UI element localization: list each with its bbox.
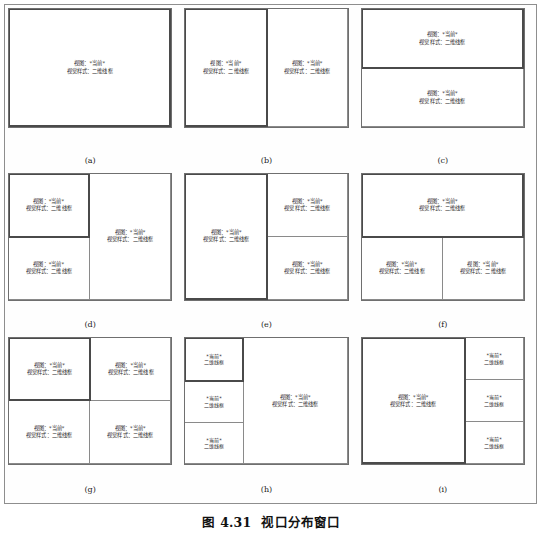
viewport-preview-b: 视图：*当前* 视觉样式：二维线框 视图：*当前* 视觉样式：二维线框 <box>184 8 348 128</box>
viewport-h-2[interactable]: *当前* 二维线框 <box>184 381 243 423</box>
viewport-label: 视图：*当前* 视觉样式：二维线框 <box>419 198 465 212</box>
viewport-label: 视图：*当前* 视觉样式：二维线框 <box>67 60 113 74</box>
panel-i-one-big-left-three-right: 视图：*当前* 视觉样式：二维线框 *当前* 二维线框 *当前* <box>355 333 531 498</box>
viewport-label: 视图：*当前* 视觉样式：二维线框 <box>108 362 154 376</box>
viewport-i-1[interactable]: 视图：*当前* 视觉样式：二维线框 <box>361 337 466 464</box>
panel-tag-g: (g) <box>84 485 95 494</box>
panel-tag-e: (e) <box>261 320 272 329</box>
panel-tag-h: (h) <box>261 485 272 494</box>
viewport-label: 视图：*当前* 视觉样式：二维线框 <box>390 394 436 408</box>
panel-f-one-top-two-bottom: 视图：*当前* 视觉样式：二维线框 视图：*当前* 视觉样式：二维线框 视图：*… <box>355 169 531 334</box>
viewport-preview-d: 视图：*当前* 视觉样式：二维线框 视图：*当前* 视觉样式：二维线框 视图：*… <box>8 173 172 301</box>
viewport-f-1[interactable]: 视图：*当前* 视觉样式：二维线框 <box>361 173 524 239</box>
viewport-preview-g: 视图：*当前* 视觉样式：二维线框 视图：*当前* 视觉样式：二维线框 <box>8 337 172 465</box>
panel-tag-a: (a) <box>85 156 96 165</box>
viewport-e-2[interactable]: 视图：*当前* 视觉样式：二维线框 <box>267 173 348 237</box>
viewport-label: 视图：*当前* 视觉样式：二维线框 <box>284 198 330 212</box>
viewport-b-2[interactable]: 视图：*当前* 视觉样式：二维线框 <box>267 8 348 127</box>
viewport-preview-e: 视图：*当前* 视觉样式：二维线框 视图：*当前* 视觉样式：二维线框 视图：*… <box>184 173 348 301</box>
viewport-label: 视图：*当前* 视觉样式：二维线框 <box>419 31 465 45</box>
viewport-g-2[interactable]: 视图：*当前* 视觉样式：二维线框 <box>90 337 171 401</box>
viewport-preview-h: *当前* 二维线框 *当前* 二维线框 *当前* 二维线框 <box>184 337 348 465</box>
viewport-label: *当前* 二维线框 <box>484 436 504 449</box>
panel-tag-b: (b) <box>261 156 272 165</box>
viewport-label: *当前* 二维线框 <box>484 394 504 407</box>
viewport-label: 视图：*当前* 视觉样式：二维线框 <box>419 90 465 104</box>
viewport-g-3[interactable]: 视图：*当前* 视觉样式：二维线框 <box>8 400 90 464</box>
viewport-e-3[interactable]: 视图：*当前* 视觉样式：二维线框 <box>267 236 348 300</box>
viewport-label: 视图：*当前* 视觉样式：二维线框 <box>26 425 72 439</box>
viewport-label: 视图：*当前* 视觉样式：二维线框 <box>27 362 73 376</box>
panel-g-four-quadrants: 视图：*当前* 视觉样式：二维线框 视图：*当前* 视觉样式：二维线框 <box>2 333 178 498</box>
viewport-d-2[interactable]: 视图：*当前* 视觉样式：二维线框 <box>8 237 90 300</box>
viewport-label: 视图：*当前* 视觉样式：二维线框 <box>460 261 506 275</box>
viewport-configuration-grid: 视图：*当前* 视觉样式：二维线框 (a) 视图：*当前* 视觉样式：二维线框 … <box>0 0 533 500</box>
panel-a-single-viewport: 视图：*当前* 视觉样式：二维线框 (a) <box>2 4 178 169</box>
panel-tag-f: (f) <box>438 320 447 329</box>
viewport-label: 视图：*当前* 视觉样式：二维线框 <box>26 261 72 275</box>
figure-caption: 图 4.31视口分布窗口 <box>0 512 543 531</box>
viewport-f-3[interactable]: 视图：*当前* 视觉样式：二维线框 <box>442 237 524 300</box>
viewport-i-3[interactable]: *当前* 二维线框 <box>465 379 524 422</box>
panel-b-two-vertical: 视图：*当前* 视觉样式：二维线框 视图：*当前* 视觉样式：二维线框 (b) <box>178 4 354 169</box>
viewport-label: 视图：*当前* 视觉样式：二维线框 <box>203 60 249 74</box>
viewport-label: 视图：*当前* 视觉样式：二维线框 <box>26 198 72 212</box>
viewport-i-2[interactable]: *当前* 二维线框 <box>465 337 524 380</box>
figure-caption-title: 视口分布窗口 <box>261 515 340 530</box>
viewport-preview-i: 视图：*当前* 视觉样式：二维线框 *当前* 二维线框 *当前* <box>361 337 525 465</box>
viewport-label: 视图：*当前* 视觉样式：二维线框 <box>107 425 153 439</box>
viewport-c-2[interactable]: 视图：*当前* 视觉样式：二维线框 <box>361 68 524 127</box>
viewport-preview-a: 视图：*当前* 视觉样式：二维线框 <box>8 8 172 128</box>
viewport-h-4[interactable]: 视图：*当前* 视觉样式：二维线框 <box>243 337 348 464</box>
panel-tag-c: (c) <box>437 156 448 165</box>
viewport-g-1[interactable]: 视图：*当前* 视觉样式：二维线框 <box>8 337 91 401</box>
viewport-label: 视图：*当前* 视觉样式：二维线框 <box>284 60 330 74</box>
viewport-label: *当前* 二维线框 <box>204 353 224 366</box>
panel-d-two-left-one-right: 视图：*当前* 视觉样式：二维线框 视图：*当前* 视觉样式：二维线框 视图：*… <box>2 169 178 334</box>
panel-c-two-horizontal: 视图：*当前* 视觉样式：二维线框 视图：*当前* 视觉样式：二维线框 (c) <box>355 4 531 169</box>
viewport-d-1[interactable]: 视图：*当前* 视觉样式：二维线框 <box>8 173 90 238</box>
viewport-label: 视图：*当前* 视觉样式：二维线框 <box>203 229 249 243</box>
panel-h-three-left-one-big-right: *当前* 二维线框 *当前* 二维线框 *当前* 二维线框 <box>178 333 354 498</box>
panel-tag-d: (d) <box>84 320 95 329</box>
viewport-h-1[interactable]: *当前* 二维线框 <box>184 337 243 381</box>
viewport-preview-f: 视图：*当前* 视觉样式：二维线框 视图：*当前* 视觉样式：二维线框 视图：*… <box>361 173 525 301</box>
viewport-preview-c: 视图：*当前* 视觉样式：二维线框 视图：*当前* 视觉样式：二维线框 <box>361 8 525 128</box>
viewport-c-1[interactable]: 视图：*当前* 视觉样式：二维线框 <box>361 8 524 69</box>
viewport-label: *当前* 二维线框 <box>204 437 224 450</box>
viewport-label: 视图：*当前* 视觉样式：二维线框 <box>272 394 318 408</box>
panel-tag-i: (i) <box>438 485 447 494</box>
viewport-a-1[interactable]: 视图：*当前* 视觉样式：二维线框 <box>8 8 171 127</box>
figure-caption-number: 图 4.31 <box>202 515 251 530</box>
viewport-h-3[interactable]: *当前* 二维线框 <box>184 422 243 464</box>
viewport-label: *当前* 二维线框 <box>204 395 224 408</box>
viewport-b-1[interactable]: 视图：*当前* 视觉样式：二维线框 <box>184 8 267 127</box>
viewport-label: *当前* 二维线框 <box>484 352 504 365</box>
viewport-g-4[interactable]: 视图：*当前* 视觉样式：二维线框 <box>89 400 171 464</box>
viewport-e-1[interactable]: 视图：*当前* 视觉样式：二维线框 <box>184 173 268 300</box>
viewport-d-3[interactable]: 视图：*当前* 视觉样式：二维线框 <box>89 173 172 300</box>
panel-e-one-left-two-right: 视图：*当前* 视觉样式：二维线框 视图：*当前* 视觉样式：二维线框 视图：*… <box>178 169 354 334</box>
viewport-label: 视图：*当前* 视觉样式：二维线框 <box>107 229 153 243</box>
viewport-i-4[interactable]: *当前* 二维线框 <box>465 421 524 464</box>
viewport-f-2[interactable]: 视图：*当前* 视觉样式：二维线框 <box>361 237 443 300</box>
viewport-label: 视图：*当前* 视觉样式：二维线框 <box>284 261 330 275</box>
viewport-label: 视图：*当前* 视觉样式：二维线框 <box>379 261 425 275</box>
